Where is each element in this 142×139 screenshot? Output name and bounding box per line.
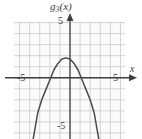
y-tick-label-positive-5: 5 [58, 16, 63, 26]
function-label: g3(x) [50, 1, 72, 14]
function-label-tail: (x) [60, 0, 72, 12]
chart-figure: g3(x) x -5 5 5 -5 [0, 0, 142, 139]
plot-area [0, 0, 142, 139]
x-axis-label: x [130, 64, 134, 74]
x-axis-arrow [129, 74, 137, 81]
x-tick-label-positive-5: 5 [113, 73, 118, 83]
y-tick-label-negative-5: -5 [57, 121, 65, 131]
x-tick-label-negative-5: -5 [17, 73, 25, 83]
y-axis-arrow [67, 13, 74, 21]
